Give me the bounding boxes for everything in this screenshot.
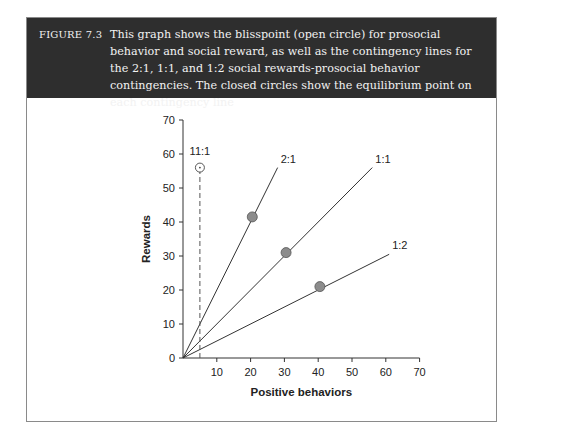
equilibrium-point [247, 212, 257, 222]
y-tick-label: 20 [163, 284, 175, 296]
x-tick-label: 10 [211, 366, 223, 378]
chart: 01020304050607010203040506070Positive be… [0, 0, 574, 432]
y-tick-label: 70 [163, 114, 175, 126]
x-axis-title: Positive behaviors [250, 386, 352, 398]
x-tick-label: 50 [346, 366, 358, 378]
equilibrium-point [315, 282, 325, 292]
x-tick-label: 70 [413, 366, 425, 378]
line-label: 1:1 [375, 153, 390, 165]
y-tick-label: 60 [163, 148, 175, 160]
blisspoint-center [199, 167, 201, 169]
contingency-line-2-1 [183, 168, 278, 358]
contingency-line-1-1 [183, 168, 372, 358]
y-tick-label: 0 [169, 352, 175, 364]
blisspoint-label: 11:1 [190, 145, 211, 157]
y-tick-label: 50 [163, 182, 175, 194]
y-tick-label: 40 [163, 216, 175, 228]
x-tick-label: 30 [278, 366, 290, 378]
x-tick-label: 20 [244, 366, 256, 378]
contingency-line-1-2 [183, 254, 389, 358]
line-label: 1:2 [392, 239, 407, 251]
y-tick-label: 30 [163, 250, 175, 262]
y-tick-label: 10 [163, 318, 175, 330]
x-tick-label: 60 [380, 366, 392, 378]
x-tick-label: 40 [312, 366, 324, 378]
equilibrium-point [281, 248, 291, 258]
y-axis-title: Rewards [140, 215, 152, 263]
line-label: 2:1 [281, 153, 296, 165]
